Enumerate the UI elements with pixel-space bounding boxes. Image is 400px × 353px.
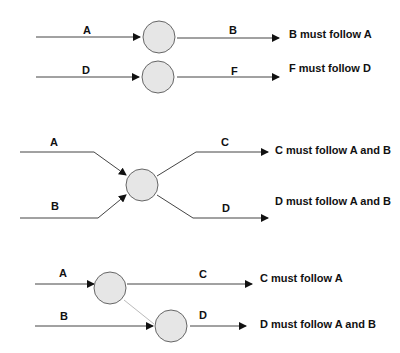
precedence-diagram: A B B must follow A D F F must follow D … (0, 0, 400, 353)
rule-text: F must follow D (289, 62, 371, 74)
edge-out-d (157, 195, 268, 218)
section-sequential: A B B must follow A D F F must follow D (36, 21, 372, 93)
edge-label-b: B (60, 310, 68, 322)
rule-text: C must follow A and B (275, 144, 391, 156)
rule-text: B must follow A (289, 28, 372, 40)
rule-text: D must follow A and B (275, 195, 391, 207)
edge-label-a: A (83, 24, 91, 36)
edge-label-b: B (229, 24, 237, 36)
node (155, 310, 187, 342)
edge-label-c: C (221, 136, 229, 148)
edge-dependency (124, 300, 154, 324)
edge-label-d: D (82, 64, 90, 76)
edge-label-a: A (59, 267, 67, 279)
node (143, 21, 175, 53)
edge-in-a (20, 152, 126, 175)
node (94, 272, 126, 304)
section-partial-join: A B C D C must follow A D must follow A … (35, 267, 376, 342)
rule-text: C must follow A (260, 272, 343, 284)
node (126, 169, 158, 201)
edge-label-d: D (222, 202, 230, 214)
edge-label-d: D (199, 309, 207, 321)
edge-in-b (20, 195, 126, 218)
node (142, 61, 174, 93)
edge-label-f: F (231, 65, 238, 77)
rule-text: D must follow A and B (260, 318, 376, 330)
edge-label-c: C (199, 268, 207, 280)
edge-label-a: A (50, 136, 58, 148)
section-join-split: A B C D C must follow A and B D must fol… (20, 136, 391, 218)
edge-label-b: B (51, 200, 59, 212)
edge-out-c (157, 152, 268, 176)
